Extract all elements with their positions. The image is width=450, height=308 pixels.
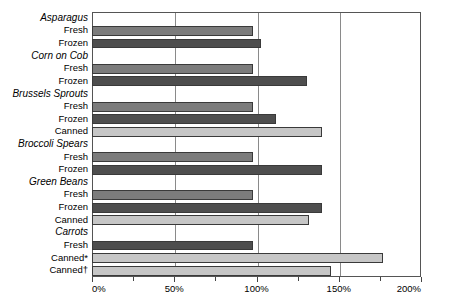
bar-label: Frozen <box>58 38 88 48</box>
x-tick-0 <box>92 277 93 282</box>
bars-layer <box>92 12 421 277</box>
group-label: Green Beans <box>29 177 88 187</box>
bar-label: Frozen <box>58 114 88 124</box>
bar-label: Fresh <box>64 189 88 199</box>
bar <box>92 215 309 225</box>
bar-label: Frozen <box>58 164 88 174</box>
x-tick-50 <box>174 277 175 282</box>
x-tick-125 <box>298 277 299 281</box>
x-tick-175 <box>380 277 381 281</box>
x-tick-25 <box>133 277 134 281</box>
bar <box>92 241 253 251</box>
bar-label: Fresh <box>64 25 88 35</box>
bar <box>92 152 253 162</box>
x-tick-label-200: 200% <box>397 283 421 294</box>
x-tick-100 <box>257 277 258 282</box>
x-tick-150 <box>339 277 340 282</box>
x-tick-label-50: 50% <box>165 283 184 294</box>
bar <box>92 203 322 213</box>
bar <box>92 39 261 49</box>
bar <box>92 26 253 36</box>
bar <box>92 165 322 175</box>
x-tick-label-0: 0% <box>92 283 106 294</box>
bar-label: Fresh <box>64 240 88 250</box>
bar-label: Fresh <box>64 101 88 111</box>
bar-label: Fresh <box>64 63 88 73</box>
bar <box>92 266 331 276</box>
group-label: Corn on Cob <box>31 51 88 61</box>
group-label: Asparagus <box>40 13 88 23</box>
category-labels: AsparagusFreshFrozenCorn on CobFreshFroz… <box>0 0 92 308</box>
bar-label: Canned <box>55 126 88 136</box>
x-tick-label-150: 150% <box>327 283 351 294</box>
group-label: Brussels Sprouts <box>12 89 88 99</box>
bar-label: Canned* <box>51 253 88 263</box>
bar-label: Frozen <box>58 76 88 86</box>
x-tick-75 <box>215 277 216 281</box>
x-tick-200 <box>421 277 422 282</box>
bar <box>92 253 383 263</box>
group-label: Broccoli Spears <box>18 139 88 149</box>
bar <box>92 64 253 74</box>
bar <box>92 102 253 112</box>
bar-label: Canned† <box>49 265 88 275</box>
bar-label: Fresh <box>64 152 88 162</box>
bar <box>92 127 322 137</box>
bar-label: Frozen <box>58 202 88 212</box>
x-axis: 0%50%100%150%200% <box>92 277 421 305</box>
chart-container: AsparagusFreshFrozenCorn on CobFreshFroz… <box>0 0 450 308</box>
bar <box>92 190 253 200</box>
bar <box>92 114 276 124</box>
group-label: Carrots <box>55 227 88 237</box>
bar-label: Canned <box>55 215 88 225</box>
bar <box>92 76 307 86</box>
x-tick-label-100: 100% <box>244 283 268 294</box>
